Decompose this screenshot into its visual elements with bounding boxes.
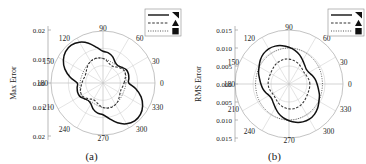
panel-b-legend-square-marker: [355, 28, 361, 34]
panel-a-legend[interactable]: [145, 9, 181, 36]
panel-b: 0.015 0.010 0.005 0.000 0.005 0.010 0.01…: [183, 0, 366, 164]
panel-a-rtick-0: 0.02: [33, 27, 46, 35]
panel-b-rtick-6: 0.015: [216, 135, 232, 143]
panel-a-angular-ticks: 0 30 60 90 120 150 180 210 240 270 300 3…: [37, 24, 164, 143]
panel-b-rtick-0: 0.015: [216, 27, 232, 35]
panel-b-legend[interactable]: [328, 9, 364, 36]
panel-b-rtick-5: 0.010: [216, 117, 232, 125]
panel-b-ang-90: 90: [285, 23, 293, 32]
panel-a-ang-210: 210: [43, 103, 55, 112]
panel-a-ang-270: 270: [97, 134, 109, 143]
panel-a-ang-30: 30: [152, 57, 160, 66]
panel-a-rtick-4: 0.02: [33, 133, 46, 141]
panel-b-caption: (b): [183, 150, 366, 162]
panel-a-plot: 0.02 0.01 0.00 0.01 0.02 Max Error: [0, 0, 183, 164]
panel-a: 0.02 0.01 0.00 0.01 0.02 Max Error: [0, 0, 183, 164]
panel-a-ang-330: 330: [152, 103, 164, 112]
panel-a-ang-60: 60: [136, 34, 144, 43]
panel-a-legend-square-marker: [172, 28, 178, 34]
panel-a-ang-90: 90: [99, 24, 107, 33]
panel-b-ang-330: 330: [340, 105, 352, 114]
panel-a-ang-300: 300: [136, 125, 148, 134]
panel-a-axis-title: Max Error: [9, 66, 18, 100]
panel-b-ang-150: 150: [228, 58, 240, 67]
panel-b-plot: 0.015 0.010 0.005 0.000 0.005 0.010 0.01…: [183, 0, 366, 164]
panel-b-ang-0: 0: [348, 80, 352, 89]
panel-a-ang-120: 120: [59, 34, 71, 43]
panel-b-ang-210: 210: [228, 105, 240, 114]
panel-b-rtick-1: 0.010: [216, 45, 232, 53]
panel-a-ang-150: 150: [43, 57, 55, 66]
panel-b-ang-180: 180: [224, 80, 236, 89]
panel-a-ang-0: 0: [160, 79, 164, 88]
panel-b-ang-30: 30: [340, 58, 348, 67]
panel-b-axis-title: RMS Error: [194, 66, 203, 102]
panel-b-ang-240: 240: [244, 127, 256, 136]
panel-a-radial-ticks: [48, 30, 51, 136]
panel-a-ang-240: 240: [59, 125, 71, 134]
panel-a-ang-180: 180: [37, 79, 49, 88]
panel-b-grid: [235, 30, 343, 138]
polar-error-figure: 0.02 0.01 0.00 0.01 0.02 Max Error: [0, 0, 366, 164]
panel-a-grid: [51, 31, 155, 135]
panel-a-caption: (a): [0, 150, 183, 162]
panel-b-ang-300: 300: [323, 127, 335, 136]
panel-b-ang-270: 270: [283, 136, 295, 145]
panel-b-ang-120: 120: [244, 34, 256, 43]
